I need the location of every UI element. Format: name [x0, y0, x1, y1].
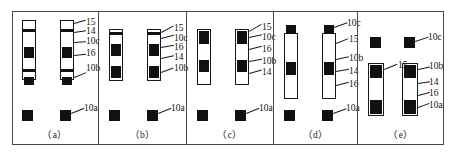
leader-c-14: [249, 69, 262, 74]
leader-a-10c: [74, 41, 86, 43]
leader-b-16: [161, 45, 174, 48]
leader-b-14: [161, 55, 174, 59]
bar-a-left-seg-top: [23, 29, 35, 32]
square-e-left-10c: [370, 37, 381, 48]
square-a-left-10a: [22, 110, 33, 121]
square-d-left-10a: [284, 110, 295, 121]
label-c-16: 16: [262, 44, 272, 54]
bar-b-left-seg-top: [110, 32, 122, 35]
label-e-10c: 10c: [428, 32, 442, 42]
bar-b-left-seg-upper: [111, 44, 121, 56]
label-b-10a: 10a: [171, 103, 185, 113]
bar-b-right-seg-top: [148, 32, 160, 35]
leader-c-10b: [249, 59, 262, 62]
caption-b: （b）: [99, 127, 186, 141]
bar-c-left-seg-mid: [199, 60, 209, 72]
label-e-10a: 10a: [429, 100, 443, 110]
panel-a: 15 14 10c 16 10b 10a （a）: [12, 11, 98, 145]
bar-a-left-bottom-cap: [24, 77, 34, 85]
bar-c-right-seg-top: [237, 31, 247, 44]
bar-a-left-seg-mid: [24, 47, 34, 58]
caption-e: （e）: [358, 127, 444, 141]
label-e-14: 14: [429, 77, 439, 87]
bar-e-left: [368, 63, 384, 116]
leader-a-15: [74, 20, 86, 24]
panel-c: 15 10c 16 10b 14 10a （c）: [187, 11, 273, 145]
leader-c-16: [249, 46, 262, 50]
bar-e-left-seg-bottom: [370, 100, 382, 114]
leader-e-10a: [418, 103, 430, 108]
square-b-right-10a: [147, 110, 158, 121]
label-c-10a: 10a: [259, 103, 273, 113]
label-b-16: 16: [174, 42, 184, 52]
square-b-left-10a: [109, 110, 120, 121]
label-b-14: 14: [174, 52, 184, 62]
leader-c-15: [249, 24, 262, 32]
leader-d-10a: [333, 108, 346, 114]
label-a-10a: 10a: [84, 103, 98, 113]
leader-d-14: [336, 69, 349, 72]
figure-root: 15 14 10c 16 10b 10a （a）: [0, 0, 456, 158]
label-b-15: 15: [174, 23, 184, 33]
leader-c-10c: [249, 34, 262, 38]
leader-a-10b: [74, 72, 86, 78]
label-a-16: 16: [86, 48, 96, 58]
bar-d-left-top-cap: [286, 25, 296, 34]
leader-d-16: [336, 82, 349, 86]
bar-b-right: [147, 29, 161, 81]
bar-d-right: [322, 33, 336, 99]
square-c-right-10a: [235, 110, 246, 121]
caption-d: （d）: [274, 127, 357, 141]
bar-b-left-seg-lower: [111, 66, 121, 78]
label-a-14: 14: [86, 26, 96, 36]
bar-a-left-seg-low: [23, 69, 35, 72]
caption-c: （c）: [187, 127, 273, 141]
bar-e-right: [402, 63, 418, 116]
leader-a-10a: [71, 108, 84, 114]
square-e-right-10c: [404, 37, 415, 48]
caption-a: （a）: [12, 127, 98, 141]
bar-d-left-seg-mid: [286, 62, 296, 75]
leader-e-15: [384, 64, 397, 70]
bar-c-left-seg-top: [199, 31, 209, 44]
bar-d-left: [284, 33, 298, 99]
square-c-left-10a: [197, 110, 208, 121]
bar-a-right: [60, 20, 74, 80]
label-e-16: 16: [429, 88, 439, 98]
bar-a-right-seg-top: [61, 29, 73, 32]
bar-c-right-seg-mid: [237, 60, 247, 72]
leader-b-10b: [161, 68, 174, 73]
bar-b-right-seg-upper: [149, 44, 159, 56]
bar-c-right: [235, 29, 249, 85]
bar-e-right-seg-bottom: [404, 100, 416, 114]
label-e-15: 15: [398, 60, 408, 70]
leader-c-10a: [246, 108, 259, 114]
square-a-right-10a: [60, 110, 71, 121]
bar-b-right-seg-lower: [149, 66, 159, 78]
bar-b-left: [109, 29, 123, 81]
label-c-15: 15: [262, 22, 272, 32]
leader-e-10c: [415, 37, 429, 42]
bar-a-right-seg-low: [61, 69, 73, 72]
bar-a-left: [22, 20, 36, 80]
square-d-right-10a: [322, 110, 333, 121]
panel-e: 10c 15 10b 14 16 10a （e）: [358, 11, 444, 145]
leader-b-10c: [161, 35, 174, 39]
bar-c-left: [197, 29, 211, 85]
leader-d-15: [336, 38, 348, 44]
leader-a-14: [74, 30, 86, 33]
panel-b: 15 10c 16 14 10b 10a （b）: [99, 11, 186, 145]
leader-b-10a: [158, 108, 171, 114]
bar-d-right-top-cap: [324, 25, 334, 34]
leader-d-10c: [334, 22, 347, 28]
leader-d-10b: [336, 56, 349, 60]
bar-a-right-bottom-cap: [62, 77, 72, 85]
bar-e-left-seg-top: [370, 65, 382, 78]
bar-a-right-seg-mid: [62, 47, 72, 58]
bar-d-right-seg-mid: [324, 62, 334, 75]
panel-d: 10c 15 10b 14 16 10a （d）: [274, 11, 357, 145]
leader-a-16: [74, 54, 86, 56]
label-e-10b: 10b: [429, 61, 443, 71]
label-c-14: 14: [262, 67, 272, 77]
leader-b-15: [161, 25, 174, 32]
